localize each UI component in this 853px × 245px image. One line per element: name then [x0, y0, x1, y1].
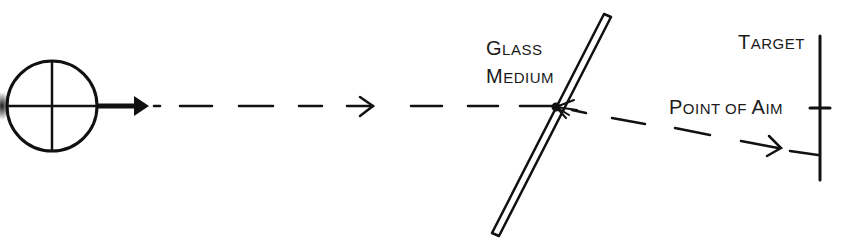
medium-label-rest: EDIUM [503, 69, 554, 86]
glass-label-line2: MEDIUM [486, 63, 554, 91]
aim-label-rest1: OINT OF [683, 100, 752, 117]
glass-label-line1: GLASS [486, 35, 554, 63]
glass-medium-label: GLASS MEDIUM [486, 35, 554, 91]
bullet-arrow [98, 96, 149, 116]
aim-label-cap1: P [669, 96, 683, 118]
target-label-cap: T [738, 31, 751, 53]
glass-label-cap: G [486, 37, 502, 59]
glass-label-rest: LASS [502, 41, 542, 58]
target-label: TARGET [738, 32, 805, 52]
aim-label-rest2: IM [765, 100, 783, 117]
medium-label-cap: M [486, 65, 503, 87]
point-of-aim-label: POINT OF AIM [669, 97, 783, 117]
scope-reticle-icon [6, 60, 98, 151]
diagram-canvas [0, 0, 853, 245]
target-label-rest: ARGET [751, 35, 805, 52]
incoming-dashed-trajectory [154, 97, 552, 116]
aim-label-cap2: A [752, 96, 766, 118]
deflection-diagram: GLASS MEDIUM TARGET POINT OF AIM [0, 0, 853, 245]
